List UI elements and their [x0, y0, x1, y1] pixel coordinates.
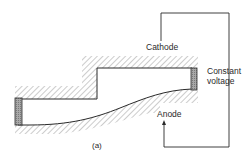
right-insulator-block	[191, 68, 197, 90]
cathode-label: Cathode	[146, 42, 178, 52]
figure-caption: (a)	[92, 141, 102, 151]
constant-voltage-label-line1: Constant	[207, 66, 241, 76]
anode-label: Anode	[157, 109, 182, 119]
anode-arrow-icon	[162, 120, 166, 125]
constant-voltage-label-line2: voltage	[207, 76, 234, 86]
left-insulator-block	[15, 98, 22, 125]
